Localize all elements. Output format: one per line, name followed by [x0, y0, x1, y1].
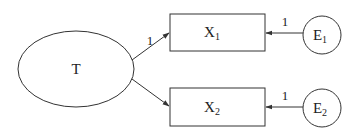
latent-node-t: T — [18, 31, 134, 107]
edge-t-to-x2 — [132, 79, 169, 106]
edge-label-e1-x1: 1 — [282, 14, 289, 29]
path-diagram: T X1 X2 E1 E2 1 1 1 — [0, 0, 359, 134]
observed-node-x1: X1 — [170, 14, 265, 51]
node-label-t: T — [71, 61, 80, 77]
edge-label-t-x1: 1 — [147, 33, 154, 48]
error-node-e1: E1 — [303, 16, 341, 54]
edge-label-e2-x2: 1 — [282, 88, 289, 103]
error-node-e2: E2 — [303, 89, 341, 127]
observed-node-x2: X2 — [170, 88, 265, 126]
